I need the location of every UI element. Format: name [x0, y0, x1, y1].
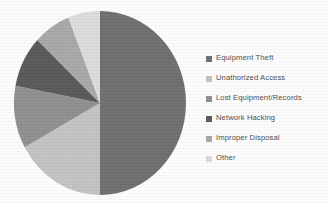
pie-svg [0, 0, 200, 203]
legend-square-icon [206, 96, 212, 102]
pie-slices-group [14, 11, 186, 195]
legend-square-icon [206, 116, 212, 122]
legend-item-label: Network Hacking [216, 112, 275, 123]
legend-item-label: Unathorized Access [216, 72, 285, 83]
chart-legend: Equipment Theft Unathorized Access Lost … [206, 52, 328, 172]
legend-item-equipment-theft[interactable]: Equipment Theft [206, 52, 328, 72]
pie-chart-figure: Equipment Theft Unathorized Access Lost … [0, 0, 328, 203]
legend-item-label: Improper Disposal [216, 132, 280, 143]
legend-item-label: Equipment Theft [216, 52, 273, 63]
legend-item-network-hacking[interactable]: Network Hacking [206, 112, 328, 132]
legend-square-icon [206, 56, 212, 62]
pie-plot-area [0, 0, 200, 203]
legend-square-icon [206, 136, 212, 142]
legend-square-icon [206, 76, 212, 82]
legend-square-icon [206, 156, 212, 162]
legend-item-label: Lost Equipment/Records [216, 92, 302, 103]
pie-slice[interactable] [100, 11, 186, 195]
legend-item-other[interactable]: Other [206, 152, 328, 172]
legend-item-label: Other [216, 152, 236, 163]
legend-item-lost-equipment-records[interactable]: Lost Equipment/Records [206, 92, 328, 112]
legend-item-improper-disposal[interactable]: Improper Disposal [206, 132, 328, 152]
legend-item-unathorized-access[interactable]: Unathorized Access [206, 72, 328, 92]
